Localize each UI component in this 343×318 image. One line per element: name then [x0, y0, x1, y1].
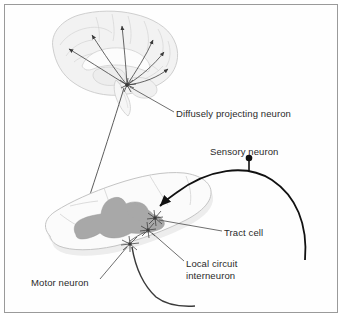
local-circuit-interneuron-soma: [146, 228, 149, 231]
neuroanatomy-diagram: [0, 0, 343, 318]
brain-illustration: [53, 11, 178, 116]
label-tract-cell: Tract cell: [224, 227, 263, 239]
label-motor-neuron: Motor neuron: [31, 277, 89, 289]
label-local-circuit-line2: interneuron: [186, 270, 235, 281]
leader-local-circuit-interneuron: [152, 233, 184, 261]
motor-neuron-soma: [128, 242, 132, 246]
label-diffusely-projecting-neuron: Diffusely projecting neuron: [176, 108, 291, 120]
label-local-circuit-interneuron: Local circuitinterneuron: [186, 258, 237, 281]
label-local-circuit-line1: Local circuit: [186, 258, 237, 269]
tract-cell-soma: [153, 216, 157, 220]
figure-container: Diffusely projecting neuron Sensory neur…: [0, 0, 343, 318]
label-sensory-neuron: Sensory neuron: [210, 146, 278, 158]
